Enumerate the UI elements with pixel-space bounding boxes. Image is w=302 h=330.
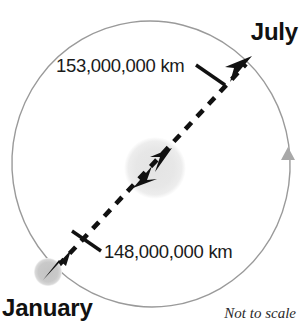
label-aphelion-distance: 153,000,000 km [56,57,184,76]
label-perihelion-distance: 148,000,000 km [104,243,232,262]
orbit-direction-arrow-icon [281,147,295,160]
label-january: January [2,296,93,320]
sun-body [124,137,186,199]
label-july: July [251,20,298,44]
orbit-diagram-canvas [0,0,302,330]
aphelion-leader-line [196,65,225,85]
arrowhead-toward-july-icon [225,56,252,82]
orbit-axis-dashed-line [58,64,246,266]
caption-not-to-scale: Not to scale [224,306,296,321]
orbit-diagram: July January 153,000,000 km 148,000,000 … [0,0,302,330]
